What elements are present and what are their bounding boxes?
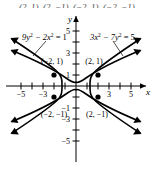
- leader-lines: [33, 41, 123, 56]
- x-axis-label: x: [145, 87, 150, 97]
- figure-container: (2, 1), (2, −1), (−2, 1), (−2, −1),: [0, 0, 156, 171]
- point-marker: [51, 72, 56, 77]
- point-label: (2, 1): [85, 57, 103, 66]
- point-label: (−2, 1): [41, 57, 63, 66]
- point-marker: [51, 94, 56, 99]
- y-axis-label: y: [67, 14, 72, 24]
- point-marker: [95, 94, 100, 99]
- hyperbola-plot: −5 −3 3 5 5 3 1 −1 −3 −5 x y 9y2 − 2x2 =…: [0, 0, 156, 171]
- x-tick-label: −3: [39, 90, 48, 99]
- x-tick-label: 5: [129, 90, 133, 99]
- y-tick-label: −5: [61, 137, 70, 146]
- x-tick-label: −5: [17, 90, 26, 99]
- x-tick-label: 3: [107, 90, 111, 99]
- y-tick-label: 1: [66, 71, 70, 80]
- y-tick-label: 3: [66, 49, 70, 58]
- point-label: (2, −1): [86, 110, 108, 119]
- equation-label-right: 3x2 − 7y2 = 5: [89, 32, 135, 42]
- point-label: (−2, −1): [41, 110, 68, 119]
- equation-label-left: 9y2 − 2x2 = 1: [22, 32, 67, 42]
- point-marker: [95, 72, 100, 77]
